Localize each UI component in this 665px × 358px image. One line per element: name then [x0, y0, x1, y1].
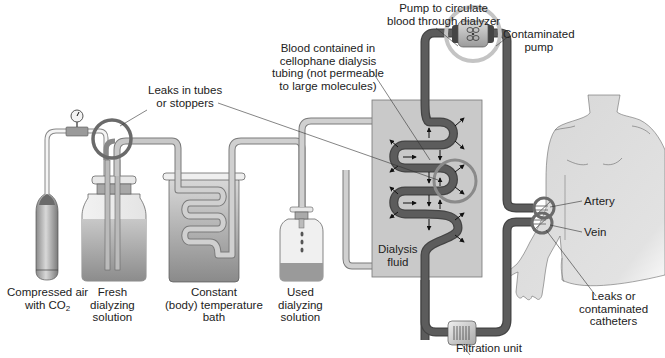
label-temperature-bath: Constant (body) temperature bath — [165, 286, 263, 324]
label-filtration-unit: Filtration unit — [456, 342, 522, 355]
label-fresh-solution: Fresh dialyzing solution — [90, 286, 135, 324]
label-compressed-air: Compressed air with CO2 — [7, 286, 88, 311]
fresh-solution-bottle — [82, 141, 178, 281]
label-vein: Vein — [584, 226, 606, 239]
label-dialysis-fluid: Dialysis fluid — [378, 243, 418, 268]
label-leaks-tubes: Leaks in tubes or stoppers — [148, 84, 222, 109]
label-used-solution: Used dialyzing solution — [278, 286, 323, 324]
label-leaks-catheters: Leaks or contaminated catheters — [579, 290, 648, 328]
label-blood-tubing: Blood contained in cellophane dialysis t… — [272, 42, 384, 92]
label-artery: Artery — [584, 195, 615, 208]
used-solution-bottle — [280, 207, 323, 281]
label-pump: Pump to circulate blood through dialyzer — [387, 2, 500, 27]
pressure-gauge — [66, 110, 88, 136]
label-contaminated-pump: Contaminated pump — [503, 28, 575, 53]
